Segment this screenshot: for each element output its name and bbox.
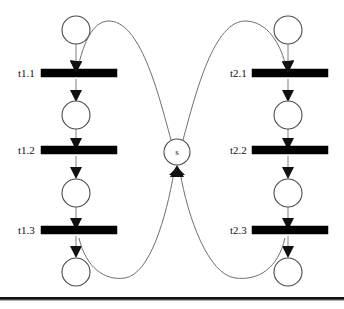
place-right-1[interactable] <box>274 101 302 129</box>
transition-label-t2-2: t2.2 <box>230 144 247 156</box>
arc-s-to-t1-1 <box>79 21 171 140</box>
transition-t2-3[interactable] <box>252 226 328 234</box>
petri-net-canvas: t1.1 t1.2 t1.3 <box>0 0 344 309</box>
bottom-rule-shadow <box>0 299 344 300</box>
shared-place-label: s <box>175 147 179 157</box>
place-right-2[interactable] <box>274 179 302 207</box>
place-left-0[interactable] <box>62 16 90 44</box>
transition-t1-2[interactable] <box>41 146 117 154</box>
transition-t1-3[interactable] <box>41 226 117 234</box>
branch-right: t2.1 t2.2 t2.3 <box>230 16 328 286</box>
transition-t1-1[interactable] <box>41 69 117 77</box>
arc-s-to-t2-1 <box>183 21 285 140</box>
place-right-3[interactable] <box>274 258 302 286</box>
transition-label-t1-3: t1.3 <box>18 224 35 236</box>
arrowhead-left-3 <box>70 167 82 179</box>
arrowhead-right-1 <box>282 90 294 102</box>
arc-t1-3-to-s <box>79 172 174 278</box>
place-right-0[interactable] <box>274 16 302 44</box>
arrowhead-left-1 <box>70 90 82 102</box>
transition-label-t2-1: t2.1 <box>230 67 247 79</box>
branch-left: t1.1 t1.2 t1.3 <box>18 16 117 286</box>
arrowhead-right-3 <box>282 167 294 179</box>
transition-label-t1-2: t1.2 <box>18 144 35 156</box>
bottom-rule <box>0 297 344 299</box>
petri-net-figure: t1.1 t1.2 t1.3 <box>0 0 344 309</box>
place-left-3[interactable] <box>62 258 90 286</box>
place-left-1[interactable] <box>62 101 90 129</box>
arrowhead-into-s-wing <box>169 167 185 175</box>
transition-t2-1[interactable] <box>252 69 328 77</box>
arrowhead-left-5 <box>70 246 82 258</box>
place-left-2[interactable] <box>62 179 90 207</box>
transition-label-t1-1: t1.1 <box>18 67 35 79</box>
transition-label-t2-3: t2.3 <box>230 224 247 236</box>
arrowhead-right-5 <box>282 246 294 258</box>
transition-t2-2[interactable] <box>252 146 328 154</box>
